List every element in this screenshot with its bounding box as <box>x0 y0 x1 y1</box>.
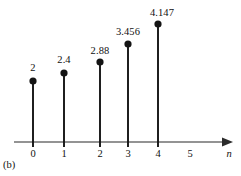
stem-n3 <box>124 40 131 147</box>
value-label-n1: 2.4 <box>57 54 70 65</box>
stem-marker-n2 <box>96 58 103 65</box>
stem-marker-n0 <box>29 77 36 84</box>
value-label-n4: 4.147 <box>150 7 174 18</box>
x-tick-label-0: 0 <box>30 148 35 159</box>
stem-n2 <box>96 58 103 147</box>
stem-n1 <box>60 69 67 147</box>
panel-label: (b) <box>3 159 15 170</box>
value-label-n3: 3.456 <box>116 26 140 37</box>
x-tick-label-2: 2 <box>97 148 102 159</box>
value-label-n2: 2.88 <box>91 45 110 56</box>
stem-marker-n1 <box>60 69 67 76</box>
x-tick-label-5: 5 <box>187 148 192 159</box>
stem-marker-n4 <box>154 20 161 27</box>
stem-n4 <box>154 20 161 147</box>
x-tick-label-3: 3 <box>125 148 130 159</box>
x-tick-label-1: 1 <box>61 148 66 159</box>
stem-marker-n3 <box>124 40 131 47</box>
x-axis-label: n <box>226 148 231 159</box>
stem-plot-figure: 2 2.4 2.88 3.456 4.147 0 1 2 3 4 5 n (b) <box>0 0 241 176</box>
value-label-n0: 2 <box>30 62 35 73</box>
x-axis-arrow-icon <box>222 138 233 147</box>
x-tick-label-4: 4 <box>155 148 160 159</box>
stem-n0 <box>29 77 36 147</box>
